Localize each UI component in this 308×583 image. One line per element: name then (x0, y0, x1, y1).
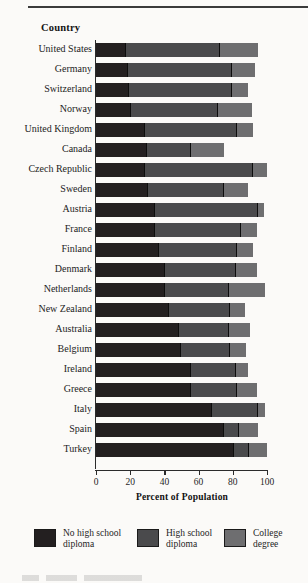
scan-artifact (22, 575, 142, 581)
legend-swatch (137, 529, 159, 547)
bar-segment (96, 243, 158, 257)
bar-segment (127, 63, 231, 77)
legend-swatch (224, 529, 246, 547)
chart-row: Ireland (0, 360, 308, 380)
country-label: Turkey (0, 443, 92, 455)
country-label: Germany (0, 63, 92, 75)
bar-segment (236, 123, 253, 137)
stacked-bar (96, 283, 265, 297)
country-label: New Zealand (0, 303, 92, 315)
chart-row: Austria (0, 200, 308, 220)
bar-segment (235, 263, 257, 277)
bar-segment (228, 323, 250, 337)
chart-row: New Zealand (0, 300, 308, 320)
country-label: Norway (0, 103, 92, 115)
x-axis-tick (267, 470, 268, 475)
bar-segment (125, 43, 219, 57)
chart-row: Australia (0, 320, 308, 340)
bar-segment (178, 323, 228, 337)
bar-segment (154, 223, 240, 237)
bar-segment (211, 403, 257, 417)
stacked-bar (96, 443, 267, 457)
stacked-bar (96, 263, 257, 277)
bar-segment (130, 103, 217, 117)
legend-item: No high school diploma (34, 528, 121, 550)
legend-label: College degree (253, 528, 283, 550)
bar-segment (164, 283, 227, 297)
stacked-bar (96, 123, 253, 137)
top-rule-divider (28, 6, 308, 8)
country-label: United Kingdom (0, 123, 92, 135)
country-label: Italy (0, 403, 92, 415)
bar-segment (144, 163, 252, 177)
country-label: Sweden (0, 183, 92, 195)
bar-segment (231, 83, 248, 97)
stacked-bar (96, 183, 248, 197)
chart-row: United Kingdom (0, 120, 308, 140)
bar-segment (235, 363, 249, 377)
bar-segment (217, 103, 251, 117)
stacked-bar (96, 223, 257, 237)
country-label: Netherlands (0, 283, 92, 295)
stacked-bar (96, 303, 245, 317)
bar-segment (96, 303, 168, 317)
stacked-bar (96, 143, 224, 157)
country-label: Belgium (0, 343, 92, 355)
plot-area: United StatesGermanySwitzerlandNorwayUni… (0, 40, 308, 470)
country-label: United States (0, 43, 92, 55)
bar-segment (164, 263, 234, 277)
country-label: Austria (0, 203, 92, 215)
bar-segment (96, 43, 125, 57)
bar-segment (223, 423, 238, 437)
legend-item: High school diploma (137, 528, 212, 550)
legend-label: No high school diploma (63, 528, 121, 550)
stacked-bar (96, 343, 246, 357)
bar-segment (229, 303, 244, 317)
education-attainment-chart: Country United StatesGermanySwitzerlandN… (0, 0, 308, 583)
bar-segment (229, 343, 246, 357)
bar-segment (96, 343, 180, 357)
stacked-bar (96, 423, 258, 437)
chart-legend: No high school diplomaHigh school diplom… (0, 528, 308, 568)
stacked-bar (96, 63, 255, 77)
chart-row: Italy (0, 400, 308, 420)
chart-row: Finland (0, 240, 308, 260)
x-axis-tick-label: 40 (149, 477, 179, 487)
bar-segment (236, 243, 253, 257)
country-label: France (0, 223, 92, 235)
country-label: Denmark (0, 263, 92, 275)
x-axis-tick (233, 470, 234, 475)
bar-segment (257, 403, 266, 417)
bar-segment (96, 103, 130, 117)
bar-segment (96, 203, 154, 217)
bar-segment (96, 143, 146, 157)
bar-segment (96, 83, 128, 97)
stacked-bar (96, 43, 258, 57)
chart-row: Czech Republic (0, 160, 308, 180)
bar-segment (233, 443, 248, 457)
chart-row: Greece (0, 380, 308, 400)
x-axis-line (95, 470, 267, 471)
bar-segment (248, 443, 267, 457)
bar-segment (223, 183, 249, 197)
x-axis-tick (164, 470, 165, 475)
x-axis-tick-label: 100 (252, 477, 282, 487)
bar-segment (190, 143, 224, 157)
chart-row: Belgium (0, 340, 308, 360)
chart-row: Canada (0, 140, 308, 160)
stacked-bar (96, 163, 267, 177)
bar-segment (96, 363, 190, 377)
stacked-bar (96, 403, 265, 417)
x-axis-tick (96, 470, 97, 475)
bar-segment (154, 203, 257, 217)
bar-segment (190, 363, 234, 377)
chart-row: Sweden (0, 180, 308, 200)
legend-item: College degree (224, 528, 283, 550)
bar-segment (146, 143, 190, 157)
legend-swatch (34, 529, 56, 547)
chart-row: United States (0, 40, 308, 60)
x-axis-tick (130, 470, 131, 475)
stacked-bar (96, 103, 252, 117)
legend-label: High school diploma (166, 528, 212, 550)
chart-row: Germany (0, 60, 308, 80)
